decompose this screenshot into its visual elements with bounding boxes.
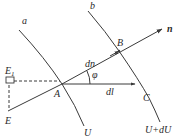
label-curve-a: a	[22, 15, 27, 26]
label-dn: dn	[85, 58, 95, 69]
label-point-B: B	[117, 37, 123, 48]
label-surface-U-dU: U+dU	[145, 124, 172, 135]
label-phi: φ	[92, 69, 98, 80]
point-B-dot	[118, 50, 120, 52]
angle-phi-arc	[87, 71, 90, 84]
label-point-C: C	[143, 92, 150, 103]
normal-vector-n	[62, 29, 162, 84]
label-surface-U: U	[84, 127, 92, 138]
label-point-E: E	[4, 115, 11, 126]
equipotential-curve-b	[88, 11, 160, 122]
label-dl: dl	[106, 86, 114, 97]
equipotential-curve-a	[19, 30, 84, 126]
label-point-E1: E1	[4, 65, 15, 78]
label-point-A: A	[53, 88, 61, 99]
label-normal-n: n	[167, 23, 173, 34]
label-curve-b: b	[90, 0, 95, 11]
equipotential-diagram: a b B n dn φ dl C A E1 E U U+dU	[0, 0, 176, 138]
